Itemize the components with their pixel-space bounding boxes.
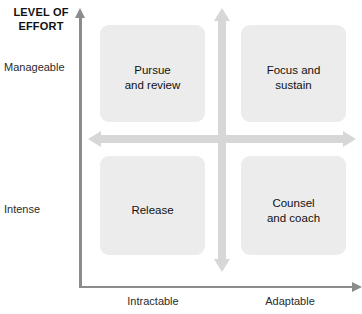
quadrant-top-left-label: Pursue and review — [125, 63, 181, 92]
quadrant-bottom-left-label: Release — [131, 203, 173, 218]
y-axis-title: LEVEL OF EFFORT — [4, 6, 78, 33]
y-axis-tick-manageable: Manageable — [4, 61, 78, 74]
vertical-divider-arrowhead-top-icon — [214, 8, 230, 21]
vertical-divider-arrowhead-bottom-icon — [214, 259, 230, 272]
horizontal-divider-arrowhead-left-icon — [88, 131, 101, 147]
y-axis-arrowhead-icon — [75, 8, 85, 18]
quadrant-bottom-right-label: Counsel and coach — [267, 196, 320, 225]
quadrant-bottom-right: Counsel and coach — [241, 156, 346, 255]
quadrant-top-left: Pursue and review — [100, 25, 205, 122]
x-axis-tick-adaptable: Adaptable — [245, 295, 335, 308]
horizontal-divider-arrow — [100, 135, 344, 143]
y-axis-line — [79, 17, 82, 288]
x-axis-arrowhead-icon — [352, 282, 362, 292]
quadrant-top-right-label: Focus and sustain — [267, 63, 321, 92]
y-axis-tick-intense: Intense — [4, 203, 78, 216]
quadrant-matrix-diagram: LEVEL OF EFFORT Manageable Intense Pursu… — [0, 0, 362, 314]
quadrant-bottom-left: Release — [100, 156, 205, 255]
horizontal-divider-arrowhead-right-icon — [343, 131, 356, 147]
x-axis-line — [79, 286, 356, 289]
quadrant-top-right: Focus and sustain — [241, 25, 346, 122]
x-axis-tick-intractable: Intractable — [108, 295, 198, 308]
